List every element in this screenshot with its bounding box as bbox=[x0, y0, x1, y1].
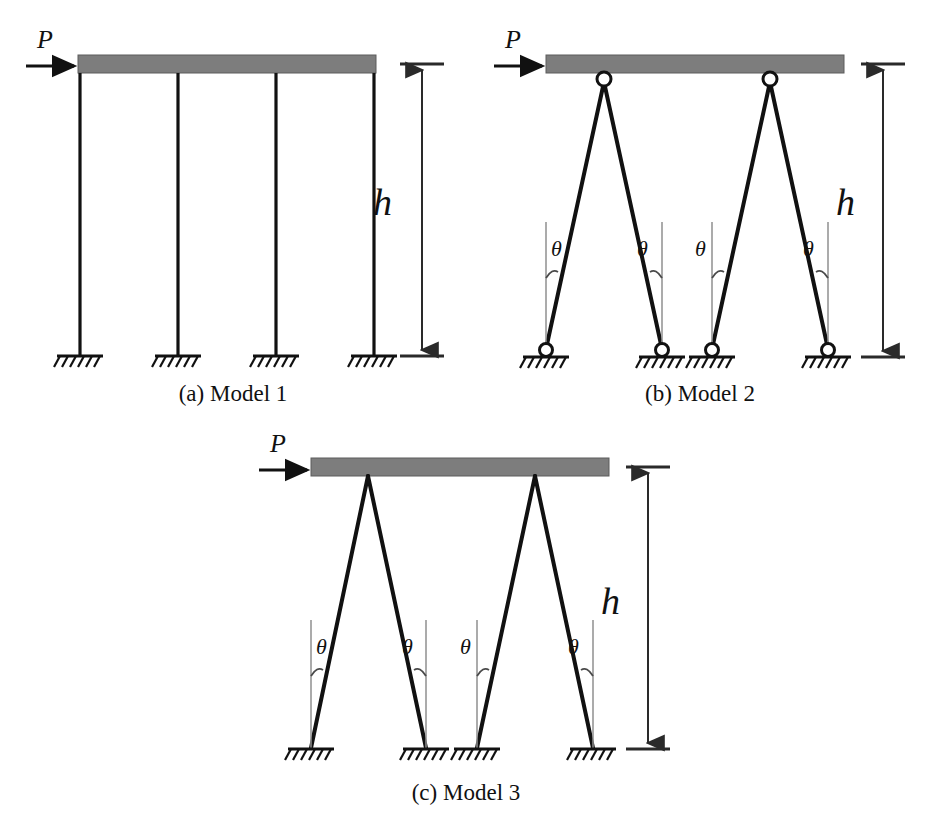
fixed-support-icon bbox=[400, 749, 449, 760]
panel-model-3: P θ θ θ θ bbox=[259, 429, 670, 805]
angle-label-model-2-3: θ bbox=[695, 236, 706, 261]
angle-markers-model-2: θ θ θ θ bbox=[546, 222, 828, 349]
angle-markers-model-3: θ θ θ θ bbox=[311, 620, 593, 748]
fixed-support-icon bbox=[348, 356, 397, 367]
columns-model-1 bbox=[80, 73, 374, 355]
angle-label-model-2-4: θ bbox=[803, 236, 814, 261]
height-dimension-model-2: h bbox=[836, 64, 905, 357]
pinned-support-icon bbox=[802, 344, 851, 369]
figure-canvas: P bbox=[0, 0, 937, 826]
beam-model-1 bbox=[78, 55, 376, 73]
members-model-3 bbox=[311, 476, 593, 748]
caption-model-3: (c) Model 3 bbox=[412, 780, 521, 805]
caption-model-1: (a) Model 1 bbox=[179, 381, 288, 406]
force-label-model-3: P bbox=[269, 429, 286, 458]
angle-label-model-3-1: θ bbox=[316, 634, 327, 659]
height-label-model-3: h bbox=[601, 580, 620, 622]
force-arrow-model-1: P bbox=[26, 25, 74, 66]
apex-pins-model-2 bbox=[597, 72, 777, 86]
angle-label-model-3-3: θ bbox=[460, 634, 471, 659]
supports-model-3 bbox=[285, 749, 616, 760]
pin-joint-icon bbox=[763, 72, 777, 86]
height-dimension-model-1: h bbox=[373, 64, 444, 356]
height-label-model-2: h bbox=[836, 181, 855, 223]
fixed-support-icon bbox=[152, 356, 201, 367]
angle-label-model-3-4: θ bbox=[568, 634, 579, 659]
pin-joint-icon bbox=[597, 72, 611, 86]
angle-label-model-3-2: θ bbox=[402, 634, 413, 659]
pinned-support-icon bbox=[686, 344, 735, 369]
fixed-support-icon bbox=[567, 749, 616, 760]
members-model-2 bbox=[546, 82, 828, 349]
height-label-model-1: h bbox=[373, 181, 392, 223]
fixed-support-icon bbox=[250, 356, 299, 367]
fixed-support-icon bbox=[54, 356, 103, 367]
height-dimension-model-3: h bbox=[601, 467, 670, 749]
panel-model-1: P bbox=[26, 25, 444, 406]
supports-model-2 bbox=[520, 344, 851, 369]
figure-root: P bbox=[0, 0, 937, 826]
beam-model-2 bbox=[546, 55, 844, 73]
pinned-support-icon bbox=[636, 344, 685, 369]
angle-label-model-2-1: θ bbox=[551, 236, 562, 261]
supports-model-1 bbox=[54, 356, 397, 367]
angle-label-model-2-2: θ bbox=[637, 236, 648, 261]
beam-model-3 bbox=[311, 458, 609, 476]
force-label-model-2: P bbox=[504, 25, 521, 54]
caption-model-2: (b) Model 2 bbox=[645, 381, 755, 406]
force-arrow-model-3: P bbox=[259, 429, 307, 470]
fixed-support-icon bbox=[285, 749, 334, 760]
pinned-support-icon bbox=[520, 344, 569, 369]
force-arrow-model-2: P bbox=[494, 25, 542, 66]
panel-model-2: P θ θ θ θ bbox=[494, 25, 905, 406]
fixed-support-icon bbox=[451, 749, 500, 760]
force-label-model-1: P bbox=[36, 25, 53, 54]
